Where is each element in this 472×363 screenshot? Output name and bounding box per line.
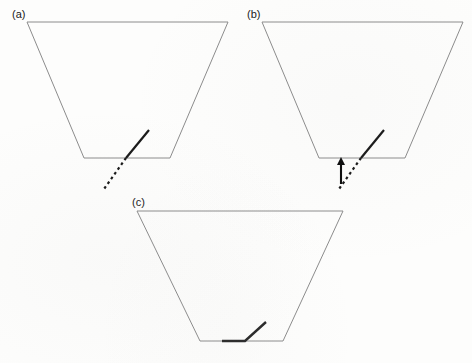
panel-a-fault-dotted-segment [104,158,126,189]
panel-c-trapezoid [137,211,343,341]
panel-b-uplift-arrow [337,157,345,184]
panel-a: (a) [12,8,228,189]
panel-b-label: (b) [247,8,260,20]
panel-c-label: (c) [132,196,145,208]
panel-a-fault-solid-segment [126,130,149,158]
panel-b: (b) [247,8,463,189]
panel-c: (c) [132,196,343,341]
panel-b-trapezoid [262,22,463,158]
panel-b-fault-solid-segment [361,130,384,158]
panel-a-trapezoid [27,22,228,158]
diagram-svg: (a) (b) (c) [0,0,472,363]
figure-canvas: (a) (b) (c) [0,0,472,363]
panel-c-fault-bent-segment [222,322,266,341]
panel-a-label: (a) [12,8,25,20]
